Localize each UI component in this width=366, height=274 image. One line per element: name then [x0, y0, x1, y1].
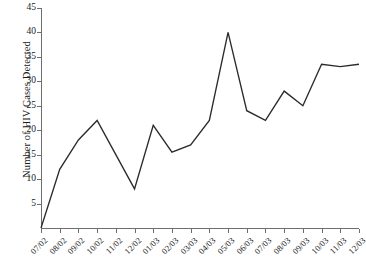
x-axis-line — [41, 228, 359, 229]
y-tick-mark — [37, 57, 41, 58]
x-tick-mark — [209, 229, 210, 233]
plot-area — [41, 8, 359, 228]
x-tick-mark — [247, 229, 248, 233]
y-axis-tick-labels: 51015202530354045 — [20, 0, 36, 274]
y-tick-label: 45 — [20, 3, 36, 13]
y-tick-label: 10 — [20, 174, 36, 184]
y-tick-mark — [37, 204, 41, 205]
x-tick-mark — [340, 229, 341, 233]
y-tick-mark — [37, 106, 41, 107]
x-tick-mark — [97, 229, 98, 233]
y-tick-mark — [37, 32, 41, 33]
x-tick-mark — [116, 229, 117, 233]
y-tick-label: 15 — [20, 150, 36, 160]
x-tick-mark — [359, 229, 360, 233]
x-tick-mark — [322, 229, 323, 233]
y-tick-mark — [37, 8, 41, 9]
x-tick-mark — [78, 229, 79, 233]
y-tick-label: 30 — [20, 77, 36, 87]
x-tick-mark — [153, 229, 154, 233]
y-tick-label: 5 — [20, 199, 36, 209]
x-tick-mark — [284, 229, 285, 233]
x-tick-mark — [228, 229, 229, 233]
y-tick-label: 25 — [20, 101, 36, 111]
y-tick-mark — [37, 130, 41, 131]
x-tick-mark — [303, 229, 304, 233]
y-tick-label: 20 — [20, 125, 36, 135]
y-tick-mark — [37, 179, 41, 180]
x-tick-mark — [265, 229, 266, 233]
y-tick-label: 40 — [20, 28, 36, 38]
y-tick-mark — [37, 155, 41, 156]
x-tick-mark — [135, 229, 136, 233]
x-tick-mark — [191, 229, 192, 233]
x-tick-mark — [60, 229, 61, 233]
y-tick-label: 35 — [20, 52, 36, 62]
x-tick-mark — [172, 229, 173, 233]
line-chart: Number of HIV Cases Detected 51015202530… — [0, 0, 366, 274]
y-tick-mark — [37, 81, 41, 82]
x-tick-mark — [41, 229, 42, 233]
